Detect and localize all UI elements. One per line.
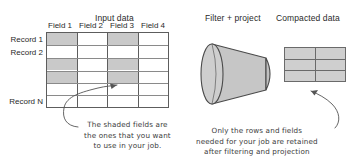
- shaded-cell: [47, 33, 77, 45]
- field-header-1: Field 1: [48, 21, 72, 30]
- input-data-table: [46, 32, 169, 108]
- shaded-cell: [47, 71, 77, 83]
- compact-row-divider: [285, 70, 345, 71]
- field-header-2: Field 2: [79, 21, 103, 30]
- annotation-line: The shaded fields are: [84, 120, 171, 131]
- table-row-divider: [47, 58, 168, 59]
- record-label-1: Record 1: [6, 35, 43, 44]
- annotation-line: needed for your job are retained: [196, 137, 318, 148]
- shaded-cell: [47, 58, 77, 70]
- diagram-canvas: Input data Filter + project Compacted da…: [0, 0, 349, 168]
- heading-filter-project: Filter + project: [205, 13, 261, 23]
- shaded-cell: [108, 71, 138, 83]
- annotation-line: the ones that you want: [84, 131, 171, 142]
- table-row-divider: [47, 71, 168, 72]
- annotation-retained-rows: Only the rows and fields needed for your…: [196, 126, 318, 158]
- table-row-divider: [47, 83, 168, 84]
- heading-compacted-data: Compacted data: [276, 13, 340, 23]
- table-row-divider: [47, 95, 168, 96]
- shaded-cell: [108, 58, 138, 70]
- annotation-line: Only the rows and fields: [196, 126, 318, 137]
- compact-column-divider: [315, 48, 316, 81]
- field-header-3: Field 3: [110, 21, 134, 30]
- record-label-n: Record N: [6, 97, 43, 106]
- shaded-cell: [108, 33, 138, 45]
- table-row-divider: [47, 45, 168, 46]
- annotation-line: to use in your job.: [84, 141, 171, 152]
- field-header-4: Field 4: [141, 21, 165, 30]
- compacted-data-table: [284, 47, 346, 82]
- record-label-2: Record 2: [6, 48, 43, 57]
- compact-row-divider: [285, 59, 345, 60]
- annotation-line: after filtering and projection: [196, 147, 318, 158]
- annotation-shaded-fields: The shaded fields are the ones that you …: [84, 120, 171, 152]
- filter-funnel-cone: [198, 32, 280, 114]
